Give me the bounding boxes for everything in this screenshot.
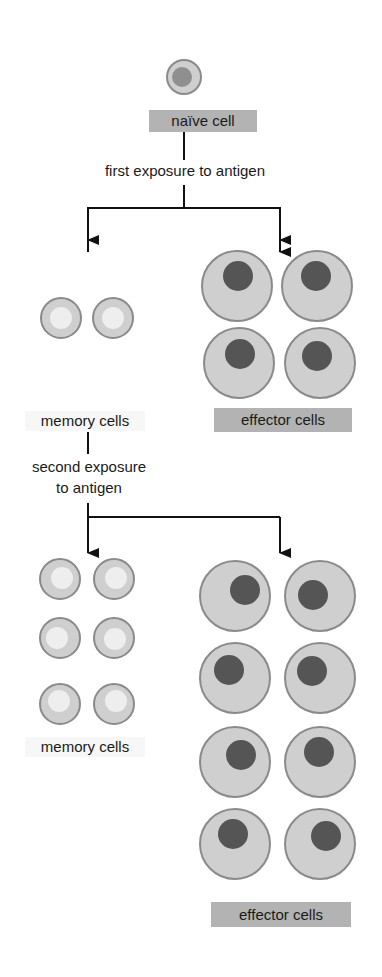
memory-cell-icon <box>94 618 134 658</box>
second-exposure-label-line1: second exposure <box>10 458 168 476</box>
effector-cells-group-2 <box>200 561 355 879</box>
effector-cell-icon <box>285 328 355 398</box>
effector-cell-icon <box>200 809 270 879</box>
effector-cell-icon <box>200 561 270 631</box>
memory-cells-label-2: memory cells <box>25 737 145 757</box>
effector-cell-icon <box>200 643 270 713</box>
memory-cell-icon <box>40 684 80 724</box>
effector-cell-icon <box>285 809 355 879</box>
effector-cell-icon <box>285 727 355 797</box>
effector-cell-icon <box>285 643 355 713</box>
effector-cell-icon <box>202 251 272 321</box>
memory-cell-icon <box>94 559 134 599</box>
memory-cell-icon <box>40 559 80 599</box>
diagram-canvas: naïve cell first exposure to antigen mem… <box>0 0 382 977</box>
effector-cell-icon <box>204 328 274 398</box>
effector-cell-icon <box>282 251 352 321</box>
effector-cells-label-1: effector cells <box>214 408 352 432</box>
effector-cells-group-1 <box>202 251 355 398</box>
memory-cells-group-1 <box>41 298 133 338</box>
memory-cell-icon <box>94 684 134 724</box>
memory-cell-icon <box>41 298 81 338</box>
memory-cell-icon <box>93 298 133 338</box>
effector-cells-label-2: effector cells <box>211 902 351 927</box>
memory-cells-group-2 <box>40 559 134 724</box>
memory-cell-icon <box>40 618 80 658</box>
first-exposure-label: first exposure to antigen <box>76 162 294 180</box>
memory-cells-label-1: memory cells <box>25 411 145 431</box>
second-exposure-label-line2: to antigen <box>10 479 168 497</box>
naive-cell-icon <box>167 60 201 94</box>
effector-cell-icon <box>285 561 355 631</box>
naive-cell-label: naïve cell <box>149 110 257 132</box>
effector-cell-icon <box>200 727 270 797</box>
